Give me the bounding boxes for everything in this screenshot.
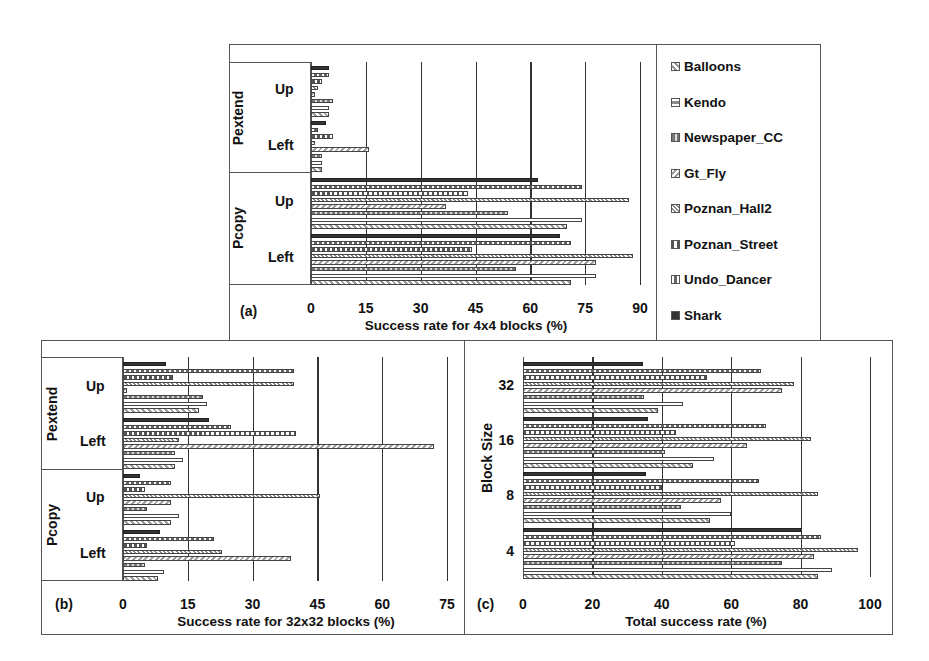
- x-tick-label: 90: [632, 300, 648, 316]
- bar-poznan-street: [311, 134, 333, 138]
- bar-poznan-hall2: [311, 254, 633, 258]
- bar-poznan-street: [123, 543, 147, 547]
- x-tick-label: 20: [585, 596, 601, 612]
- bar-newspaper-cc: [523, 450, 665, 454]
- bar-kendo: [523, 568, 832, 572]
- panel-c-x-label: Total success rate (%): [625, 614, 767, 629]
- bar-kendo: [123, 570, 164, 574]
- bar-newspaper-cc: [523, 505, 681, 509]
- bar-kendo: [523, 402, 683, 406]
- legend-swatch-icon: [671, 133, 680, 142]
- x-tick-label: 15: [180, 596, 196, 612]
- panel-b-tag: (b): [55, 596, 73, 612]
- x-tick-label: 45: [310, 596, 326, 612]
- bar-balloons: [311, 167, 322, 171]
- panel-b-pextend-label: Pextend: [44, 384, 60, 444]
- bar-balloons: [311, 280, 571, 284]
- bar-shark: [311, 121, 326, 125]
- bar-balloons: [523, 574, 818, 578]
- bar-poznan-street: [523, 541, 735, 545]
- panel-c-tag: (c): [477, 596, 494, 612]
- legend-item-shark: Shark: [671, 308, 722, 323]
- legend-item-gt-fly: Gt_Fly: [671, 166, 726, 181]
- bar-poznan-hall2: [123, 550, 222, 554]
- legend-swatch-icon: [671, 204, 680, 213]
- bar-poznan-street: [311, 79, 322, 83]
- bar-newspaper-cc: [311, 99, 333, 103]
- bar-newspaper-cc: [523, 395, 644, 399]
- bar-poznan-hall2: [523, 382, 794, 386]
- legend-box: BalloonsKendoNewspaper_CCGt_FlyPoznan_Ha…: [656, 44, 821, 341]
- legend-item-poznan-street: Poznan_Street: [671, 237, 778, 252]
- legend-swatch-icon: [671, 240, 680, 249]
- bar-newspaper-cc: [311, 211, 508, 215]
- bar-gt-fly: [311, 260, 596, 264]
- bar-undo-dancer: [311, 128, 318, 132]
- x-tick-label: 15: [358, 300, 374, 316]
- x-tick-label: 75: [439, 596, 455, 612]
- bar-balloons: [123, 408, 199, 412]
- bar-gt-fly: [523, 443, 747, 447]
- bar-gt-fly: [523, 388, 782, 392]
- x-tick-label: 60: [723, 596, 739, 612]
- bar-gt-fly: [311, 204, 446, 208]
- bar-undo-dancer: [123, 425, 231, 429]
- bar-poznan-hall2: [311, 86, 318, 90]
- bar-poznan-hall2: [123, 382, 294, 386]
- bar-kendo: [523, 512, 731, 516]
- bar-undo-dancer: [523, 535, 821, 539]
- bar-newspaper-cc: [311, 267, 516, 271]
- bar-shark: [123, 474, 140, 478]
- bar-balloons: [311, 112, 329, 116]
- bar-kendo: [311, 161, 322, 165]
- panel-c-cat-8: 8: [484, 487, 514, 503]
- bar-shark: [123, 530, 160, 534]
- bar-newspaper-cc: [311, 154, 322, 158]
- bar-shark: [311, 66, 329, 70]
- panel-b-up-label-2: Up: [86, 489, 105, 505]
- bar-newspaper-cc: [123, 451, 175, 455]
- bar-poznan-street: [123, 431, 296, 435]
- panel-a-pextend-label: Pextend: [230, 88, 246, 148]
- bar-balloons: [523, 518, 710, 522]
- bar-shark: [311, 178, 538, 182]
- bar-newspaper-cc: [123, 563, 145, 567]
- panel-b-up-label: Up: [86, 378, 105, 394]
- gridline: [870, 357, 871, 577]
- bar-kendo: [123, 402, 207, 406]
- panel-a-up-label-2: Up: [275, 193, 294, 209]
- bar-kendo: [311, 218, 582, 222]
- bar-poznan-hall2: [523, 492, 818, 496]
- gridline: [447, 357, 448, 581]
- gridline: [801, 357, 802, 577]
- legend-label: Poznan_Hall2: [684, 201, 772, 216]
- gridline: [317, 357, 318, 581]
- legend-label: Poznan_Street: [684, 237, 778, 252]
- bar-poznan-street: [123, 487, 145, 491]
- legend-label: Newspaper_CC: [684, 130, 783, 145]
- bar-poznan-hall2: [123, 438, 179, 442]
- bar-shark: [523, 417, 648, 421]
- bar-gt-fly: [123, 500, 171, 504]
- x-tick-label: 0: [119, 596, 127, 612]
- legend-item-undo-dancer: Undo_Dancer: [671, 272, 772, 287]
- gridline: [585, 62, 586, 285]
- panel-a-x-label: Success rate for 4x4 blocks (%): [365, 318, 568, 333]
- legend-item-poznan-hall2: Poznan_Hall2: [671, 201, 772, 216]
- legend-label: Kendo: [684, 95, 726, 110]
- bar-balloons: [123, 576, 158, 580]
- bar-kendo: [523, 457, 714, 461]
- panel-a-left-label: Left: [268, 137, 294, 153]
- bar-gt-fly: [123, 444, 434, 448]
- bar-gt-fly: [123, 388, 127, 392]
- bar-balloons: [123, 464, 175, 468]
- legend-label: Balloons: [684, 59, 741, 74]
- bar-poznan-street: [311, 247, 472, 251]
- bar-shark: [523, 362, 643, 366]
- x-tick-label: 30: [413, 300, 429, 316]
- bar-poznan-hall2: [123, 494, 320, 498]
- panel-a-pcopy-label: Pcopy: [230, 198, 246, 258]
- bar-undo-dancer: [123, 369, 294, 373]
- panel-c-cat-4: 4: [484, 543, 514, 559]
- legend-label: Shark: [684, 308, 722, 323]
